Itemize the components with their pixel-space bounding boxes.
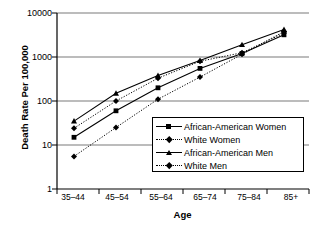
x-tick-label: 75–84 [237,192,261,202]
data-point-square [72,135,77,140]
legend-item: African-American Women [156,120,300,133]
legend-item: White Men [156,159,300,172]
data-point-diamond [113,98,119,104]
series-line [74,33,284,128]
x-tick-label: 35–44 [61,192,85,202]
x-axis-ticks [57,189,309,194]
data-point-square [198,66,203,71]
x-tick-label: 55–64 [149,192,173,202]
chart-figure: Death Rate Per 100,000 10000 1000 100 10… [0,0,316,228]
legend-marker-diamond-icon [156,134,182,146]
y-axis-ticks [52,13,57,189]
x-tick-label: 85+ [284,192,298,202]
chart-legend: African-American Women White Women Afric… [152,117,304,172]
legend-marker-triangle-icon [156,147,182,159]
legend-label: White Women [182,135,240,145]
data-point-diamond [197,74,203,80]
data-point-square [156,85,161,90]
data-point-diamond [113,125,119,131]
legend-marker-square-icon [156,121,182,133]
series-line [74,30,284,122]
legend-label: White Men [182,161,227,171]
data-point-triangle [71,118,77,123]
data-point-square [114,108,119,113]
x-axis-title: Age [55,209,310,220]
legend-item: White Women [156,133,300,146]
data-point-diamond [71,153,77,159]
x-tick-label: 65–74 [193,192,217,202]
legend-marker-diamond-icon [156,160,182,172]
legend-label: African-American Women [182,122,286,132]
legend-label: African-American Men [182,148,273,158]
legend-item: African-American Men [156,146,300,159]
x-tick-label: 45–54 [105,192,129,202]
data-point-diamond [71,125,77,131]
